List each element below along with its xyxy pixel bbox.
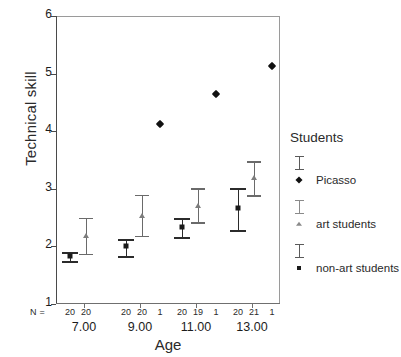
legend-error-bar-cap-icon [295,156,304,157]
plot-frame-top [56,16,280,17]
error-bar-cap [135,195,149,196]
sample-size-value: 20 [137,307,147,317]
sample-size-value: 19 [193,307,203,317]
legend-marker-diamond-icon [295,176,302,183]
legend-error-bar-cap-icon [295,213,304,214]
legend-entry[interactable]: Picasso [288,156,401,190]
legend-error-bar-icon [299,200,300,214]
y-axis-line [56,16,57,304]
legend-error-bar-cap-icon [295,257,304,258]
legend-error-bar-cap-icon [295,244,304,245]
x-group-label: 13.00 [236,320,267,334]
legend-marker-square-icon [297,266,301,270]
legend-entry[interactable]: non-art students [288,244,401,278]
data-point-triangle [83,233,89,238]
data-point-triangle [195,203,201,208]
data-point-square [124,244,129,249]
sample-size-value: 1 [269,307,274,317]
sample-size-value: 20 [233,307,243,317]
legend-label: art students [316,218,376,230]
y-axis-title: Technical skill [22,29,39,209]
data-point-square [68,254,73,259]
chart-figure: Technical skill 123456 N = 2020202012019… [0,0,401,357]
plot-area: 123456 [56,16,280,304]
error-bar-cap [79,254,93,255]
x-group-label: 11.00 [181,320,211,334]
x-group-label: 7.00 [72,320,96,334]
sample-size-value: 20 [121,307,131,317]
error-bar-cap [118,256,134,258]
data-point-diamond [156,119,164,127]
legend-error-bar-cap-icon [295,169,304,170]
x-group-label: 9.00 [128,320,152,334]
error-bar-cap [62,261,78,263]
error-bar-cap [191,222,205,223]
y-tick-label: 5 [45,66,52,78]
y-tick-label: 2 [45,238,52,250]
sample-size-value: 21 [249,307,259,317]
sample-size-value: 20 [65,307,75,317]
error-bar-cap [135,236,149,237]
data-point-diamond [212,90,220,98]
sample-size-value: 1 [213,307,218,317]
sample-size-row: N = 2020202012019120211 [0,306,290,320]
error-bar-cap [174,237,190,239]
x-axis-line [56,303,280,304]
y-tick-label: 4 [45,123,52,135]
error-bar-cap [79,218,93,219]
x-axis-title: Age [56,336,280,353]
data-point-square [236,206,241,211]
data-point-triangle [139,213,145,218]
sample-size-label: N = [30,307,45,317]
error-bar-cap [174,218,190,220]
plot-frame-right [279,16,280,304]
error-bar-cap [118,239,134,241]
legend-error-bar-icon [299,244,300,258]
data-point-diamond [268,62,276,70]
error-bar-cap [230,230,246,232]
legend-marker-triangle-icon [296,222,302,226]
legend-error-bar-icon [299,156,300,170]
sample-size-value: 20 [81,307,91,317]
sample-size-value: 20 [177,307,187,317]
legend-label: non-art students [316,262,399,274]
error-bar-cap [247,195,261,196]
legend-entry[interactable]: art students [288,200,401,234]
y-tick-label: 3 [45,181,52,193]
data-point-square [180,225,185,230]
legend-error-bar-cap-icon [295,200,304,201]
error-bar-cap [191,188,205,189]
legend-title: Students [290,130,343,145]
sample-size-value: 1 [157,307,162,317]
error-bar-cap [230,188,246,190]
y-tick-label: 6 [45,8,52,20]
legend-label: Picasso [316,174,356,186]
error-bar-cap [247,161,261,162]
data-point-triangle [251,175,257,180]
